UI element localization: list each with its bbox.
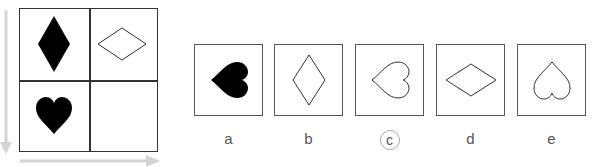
down-arrow-icon	[0, 8, 14, 156]
option-b[interactable]	[274, 44, 343, 116]
outline-heart-inverted-icon	[532, 60, 572, 100]
filled-diamond-icon	[34, 14, 74, 74]
outline-diamond-horizontal-icon	[444, 62, 498, 98]
option-e[interactable]	[517, 44, 586, 116]
selected-answer-circle: c	[380, 130, 400, 150]
option-a-label: a	[194, 130, 263, 147]
option-d[interactable]	[436, 44, 505, 116]
option-c[interactable]	[355, 44, 424, 116]
grid-cell-bottom-right-empty	[89, 80, 159, 152]
outline-diamond-vertical-icon	[291, 53, 327, 107]
outline-heart-rotated-icon	[370, 60, 410, 100]
filled-heart-icon	[34, 96, 74, 136]
grid-cell-bottom-left	[19, 80, 89, 152]
grid-cell-top-right	[89, 8, 159, 80]
option-b-label: b	[274, 130, 343, 147]
option-d-label: d	[436, 130, 505, 147]
option-e-label: e	[517, 130, 586, 147]
option-a[interactable]	[194, 44, 263, 116]
grid-cell-top-left	[19, 8, 89, 80]
option-c-label-selected: c	[355, 130, 424, 150]
outline-diamond-icon	[96, 24, 152, 64]
right-arrow-icon	[20, 155, 162, 167]
filled-heart-rotated-icon	[209, 60, 249, 100]
